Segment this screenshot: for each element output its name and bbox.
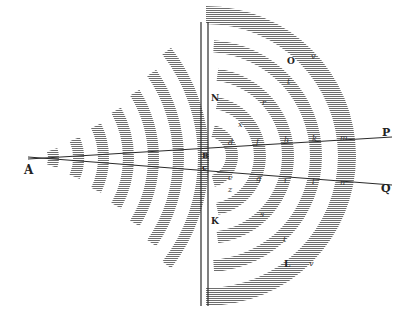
label-B: B: [202, 150, 209, 160]
label-N: N: [211, 93, 219, 103]
diffracted-wave-fronts: [206, 6, 356, 306]
label-L: L: [284, 259, 291, 269]
arc-letter: v: [309, 259, 314, 268]
diffracted-wave-band: [216, 97, 266, 214]
arc-letter: g: [256, 174, 261, 183]
arc-letter: d: [228, 138, 233, 147]
diffracted-wave-band: [212, 125, 238, 187]
label-C: c: [202, 162, 207, 172]
arc-letter: v: [311, 52, 316, 61]
arc-letter: h: [284, 135, 289, 144]
arc-letter: l: [312, 177, 315, 186]
arc-letter: z: [227, 185, 233, 194]
arc-letter: s: [260, 210, 264, 219]
arc-letter: m: [340, 133, 348, 142]
incident-wave-band: [70, 137, 84, 179]
incident-wave-fronts: [47, 48, 209, 268]
incident-wave-band: [111, 108, 134, 209]
label-A: A: [23, 163, 34, 177]
incident-wave-band: [91, 123, 109, 192]
diffraction-diagram: A B c N K P Q O L defghiklmnxzrsttvv: [0, 0, 412, 324]
arc-letter: x: [238, 120, 243, 129]
incident-wave-band: [130, 90, 159, 227]
arc-letter: i: [284, 176, 287, 185]
label-Q: Q: [381, 182, 391, 195]
label-K: K: [211, 216, 220, 226]
arc-letter: n: [340, 178, 345, 187]
label-P: P: [382, 126, 390, 139]
arc-letter: k: [312, 134, 317, 143]
label-O: O: [287, 56, 295, 66]
arc-letter: e: [228, 173, 233, 182]
